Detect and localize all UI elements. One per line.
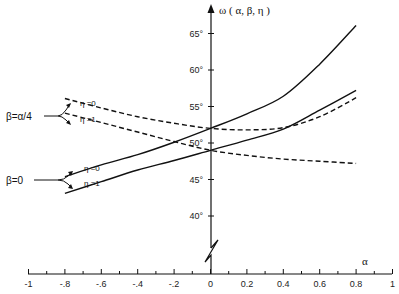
annotation-beta-alpha4: β=α/4 η =0 η =1 — [6, 99, 96, 125]
x-tick-label: 0.4 — [277, 279, 290, 289]
y-tick-label: 65° — [189, 29, 203, 39]
label-eta1-zero: η =1 — [84, 179, 100, 188]
y-axis-arrow — [208, 4, 215, 13]
label-beta-zero: β=0 — [6, 175, 24, 186]
x-tick-label: 0 — [208, 279, 213, 289]
x-tick-label: -1 — [24, 279, 32, 289]
x-tick-label: 0.8 — [350, 279, 363, 289]
x-axis-title: α — [362, 255, 368, 267]
x-tick-label: 1 — [390, 279, 395, 289]
y-tick-label: 40° — [189, 211, 203, 221]
label-beta-alpha4: β=α/4 — [6, 111, 32, 122]
x-tick-label: -.2 — [169, 279, 180, 289]
x-ticks: -1-.8-.6-.4-.200.20.40.60.81 — [24, 269, 395, 289]
annotation-beta-zero: β=0 η =0 η =1 — [6, 164, 100, 189]
y-axis-title: ω ( α, β, η ) — [219, 4, 270, 17]
x-tick-label: 0.2 — [241, 279, 254, 289]
y-tick-label: 60° — [189, 65, 203, 75]
label-eta0-alpha4: η =0 — [80, 99, 96, 108]
x-tick-label: -.4 — [132, 279, 143, 289]
chart: -1-.8-.6-.4-.200.20.40.60.81 40°45°50°55… — [0, 0, 399, 294]
label-eta1-alpha4: η =1 — [80, 115, 96, 124]
y-tick-label: 55° — [189, 102, 203, 112]
x-tick-label: -.6 — [96, 279, 107, 289]
y-tick-label: 45° — [189, 175, 203, 185]
x-tick-label: 0.6 — [313, 279, 326, 289]
axes — [28, 4, 392, 274]
y-ticks: 40°45°50°55°60°65° — [189, 29, 214, 222]
label-eta0-zero: η =0 — [84, 164, 100, 173]
x-tick-label: -.8 — [60, 279, 71, 289]
